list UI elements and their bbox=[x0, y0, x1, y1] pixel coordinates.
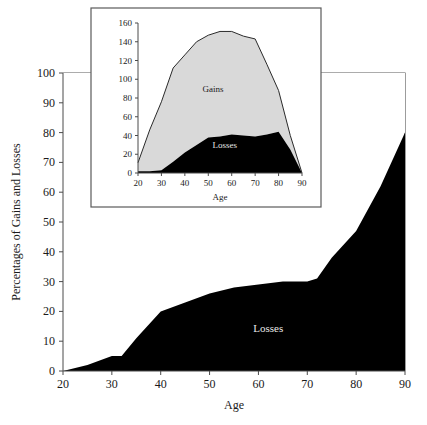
main-y-axis-title: Percentages of Gains and Losses bbox=[9, 143, 23, 301]
main-losses-label: Losses bbox=[253, 322, 283, 334]
figure-container: 0102030405060708090100 2030405060708090 … bbox=[0, 0, 427, 425]
main-y-tick-label: 100 bbox=[37, 66, 55, 80]
inset-x-tick-label: 70 bbox=[251, 178, 261, 188]
main-y-tick-label: 20 bbox=[43, 304, 55, 318]
inset-chart: 020406080100120140160 2030405060708090 A… bbox=[91, 8, 321, 207]
inset-y-tick-label: 120 bbox=[119, 56, 133, 66]
main-x-tick-label: 60 bbox=[252, 377, 264, 391]
inset-x-tick-label: 20 bbox=[134, 178, 144, 188]
main-x-tick-label: 30 bbox=[106, 377, 118, 391]
main-x-tick-label: 90 bbox=[399, 377, 411, 391]
inset-losses-label: Losses bbox=[212, 140, 237, 150]
inset-y-tick-label: 160 bbox=[119, 18, 133, 28]
main-x-tick-label: 80 bbox=[350, 377, 362, 391]
main-y-tick-label: 70 bbox=[43, 155, 55, 169]
inset-x-tick-label: 80 bbox=[274, 178, 284, 188]
main-x-tick-label: 70 bbox=[301, 377, 313, 391]
inset-x-tick-label: 30 bbox=[157, 178, 167, 188]
chart-canvas: 0102030405060708090100 2030405060708090 … bbox=[0, 0, 427, 425]
inset-y-tick-label: 100 bbox=[119, 74, 133, 84]
main-y-tick-label: 90 bbox=[43, 96, 55, 110]
inset-x-tick-label: 50 bbox=[204, 178, 214, 188]
main-y-tick-label: 40 bbox=[43, 245, 55, 259]
inset-y-tick-label: 80 bbox=[123, 93, 133, 103]
inset-y-tick-label: 20 bbox=[123, 149, 133, 159]
main-y-tick-label: 50 bbox=[43, 215, 55, 229]
inset-x-tick-label: 90 bbox=[298, 178, 308, 188]
main-x-tick-label: 40 bbox=[155, 377, 167, 391]
main-y-tick-label: 10 bbox=[43, 334, 55, 348]
inset-y-tick-label: 40 bbox=[123, 131, 133, 141]
inset-y-tick-label: 140 bbox=[119, 37, 133, 47]
inset-y-tick-label: 0 bbox=[128, 168, 133, 178]
main-x-tick-label: 20 bbox=[57, 377, 69, 391]
main-y-tick-label: 60 bbox=[43, 185, 55, 199]
main-x-tick-label: 50 bbox=[204, 377, 216, 391]
main-y-tick-label: 80 bbox=[43, 126, 55, 140]
inset-x-tick-label: 60 bbox=[227, 178, 237, 188]
main-y-tick-label: 30 bbox=[43, 275, 55, 289]
inset-x-axis-title: Age bbox=[213, 192, 228, 202]
main-y-tick-label: 0 bbox=[49, 364, 55, 378]
inset-gains-label: Gains bbox=[202, 84, 223, 94]
inset-x-tick-label: 40 bbox=[180, 178, 190, 188]
inset-y-tick-label: 60 bbox=[123, 112, 133, 122]
main-x-axis-title: Age bbox=[224, 398, 244, 412]
